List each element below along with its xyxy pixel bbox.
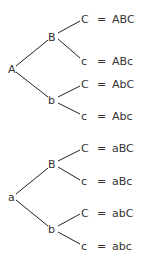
- branch-node: b: [48, 94, 55, 107]
- equals-sign: =: [97, 78, 106, 91]
- leaf-node: c: [81, 175, 87, 188]
- leaf-node: C: [81, 207, 89, 220]
- outcome: aBc: [112, 175, 132, 188]
- outcome: Abc: [112, 110, 133, 123]
- leaf-node: C: [81, 78, 89, 91]
- leaf-node: c: [81, 110, 87, 123]
- equals-sign: =: [97, 175, 106, 188]
- equals-sign: =: [97, 13, 106, 26]
- outcome: ABC: [112, 13, 135, 26]
- tree-1: A B b C c C c = = = = ABC ABc AbC Abc: [8, 13, 135, 123]
- leaf-node: C: [81, 142, 89, 155]
- outcome: abC: [112, 207, 134, 220]
- tree-2: a B b C c C c = = = = aBC aBc abC abc: [8, 142, 134, 253]
- branch-node: b: [48, 223, 55, 236]
- probability-tree-diagram: A B b C c C c = = = = ABC ABc AbC Abc a …: [0, 0, 143, 264]
- branch-node: B: [48, 31, 56, 44]
- branch-node: B: [48, 158, 56, 171]
- leaf-node: C: [81, 13, 89, 26]
- equals-sign: =: [97, 55, 106, 68]
- equals-sign: =: [97, 207, 106, 220]
- outcome: abc: [112, 240, 132, 253]
- outcome: aBC: [112, 142, 134, 155]
- outcome: AbC: [112, 78, 135, 91]
- equals-sign: =: [97, 142, 106, 155]
- leaf-node: c: [81, 240, 87, 253]
- equals-sign: =: [97, 240, 106, 253]
- leaf-node: c: [81, 55, 87, 68]
- equals-sign: =: [97, 110, 106, 123]
- root-node: A: [8, 63, 16, 76]
- outcome: ABc: [112, 55, 133, 68]
- root-node: a: [8, 191, 15, 204]
